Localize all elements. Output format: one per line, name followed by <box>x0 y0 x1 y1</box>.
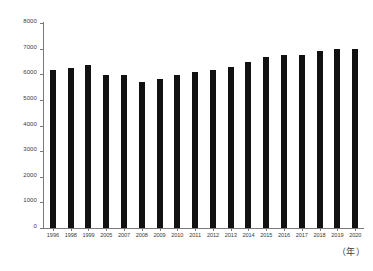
y-axis-tick-label: 4000 <box>23 121 37 127</box>
bar <box>121 75 127 228</box>
bar-slot <box>151 23 169 228</box>
x-axis-category-label: 2013 <box>222 231 240 241</box>
bar <box>263 57 269 228</box>
bar-slot <box>115 23 133 228</box>
x-axis-category-label: 2010 <box>168 231 186 241</box>
x-axis-category-label: 2020 <box>346 231 364 241</box>
y-axis-tick-label: 8000 <box>23 18 37 24</box>
x-axis-labels: 1996199819992005200720082009201020112012… <box>44 231 364 241</box>
x-axis-category-label: 2016 <box>275 231 293 241</box>
x-axis-category-label: 1996 <box>44 231 62 241</box>
bar-series <box>44 23 364 228</box>
x-axis-category-label: 2007 <box>115 231 133 241</box>
bar <box>103 75 109 228</box>
bar-slot <box>257 23 275 228</box>
bar <box>50 70 56 228</box>
bar-slot <box>62 23 80 228</box>
x-axis-category-label: 1999 <box>80 231 98 241</box>
bar <box>228 67 234 228</box>
bar <box>334 49 340 228</box>
x-axis-category-label: 1998 <box>62 231 80 241</box>
x-axis-category-label: 2009 <box>151 231 169 241</box>
bar-slot <box>168 23 186 228</box>
y-axis-tick-label: 2000 <box>23 172 37 178</box>
bar <box>210 70 216 228</box>
bar-slot <box>329 23 347 228</box>
bar <box>68 68 74 228</box>
bar <box>157 79 163 228</box>
bar-slot <box>346 23 364 228</box>
bar <box>281 55 287 228</box>
x-axis-category-label: 2011 <box>186 231 204 241</box>
bar <box>192 72 198 228</box>
bar <box>299 55 305 228</box>
bar-slot <box>204 23 222 228</box>
bar-slot <box>240 23 258 228</box>
bar-slot <box>275 23 293 228</box>
bar-slot <box>80 23 98 228</box>
x-axis-category-label: 2005 <box>97 231 115 241</box>
bar-slot <box>44 23 62 228</box>
y-axis-tick-label: 5000 <box>23 95 37 101</box>
y-axis-tick-label: 3000 <box>23 146 37 152</box>
bar <box>85 65 91 228</box>
y-axis-tick-label: 7000 <box>23 44 37 50</box>
y-axis-tick-label: 0 <box>34 223 37 229</box>
bar-slot <box>222 23 240 228</box>
x-axis-category-label: 2015 <box>257 231 275 241</box>
x-axis-category-label: 2008 <box>133 231 151 241</box>
bar <box>352 49 358 228</box>
x-axis-category-label: 2019 <box>329 231 347 241</box>
bar <box>139 82 145 228</box>
bar-slot <box>293 23 311 228</box>
bar-slot <box>311 23 329 228</box>
bar-slot <box>133 23 151 228</box>
y-axis-tick-label: 6000 <box>23 69 37 75</box>
bar-chart: 800070006000500040003000200010000 199619… <box>0 0 373 271</box>
x-axis-category-label: 2017 <box>293 231 311 241</box>
y-axis-tick-label: 1000 <box>23 197 37 203</box>
x-axis-line <box>43 228 364 229</box>
bar <box>174 75 180 228</box>
x-axis-category-label: 2018 <box>311 231 329 241</box>
x-axis-title: （年） <box>337 247 366 258</box>
bar-slot <box>97 23 115 228</box>
bar <box>245 62 251 228</box>
bar-slot <box>186 23 204 228</box>
bar <box>317 51 323 228</box>
x-axis-category-label: 2014 <box>240 231 258 241</box>
x-axis-category-label: 2012 <box>204 231 222 241</box>
